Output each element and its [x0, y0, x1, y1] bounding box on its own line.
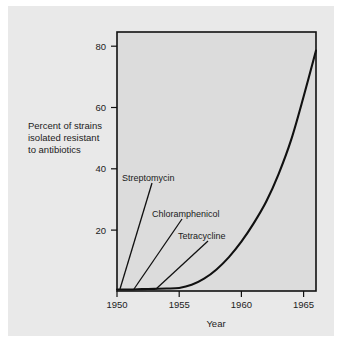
y-tick-label-20: 20	[95, 225, 106, 236]
x-axis-title: Year	[206, 318, 225, 329]
y-tick-label-80: 80	[95, 41, 106, 52]
x-tick-label-1950: 1950	[106, 299, 127, 310]
x-tick-label-1960: 1960	[231, 299, 252, 310]
y-axis-title-line-1: Percent of strains	[28, 120, 102, 131]
y-axis-ticks	[111, 46, 117, 230]
y-axis-title-line-2: isolated resistant	[28, 132, 100, 143]
x-tick-label-1955: 1955	[169, 299, 190, 310]
chart-figure: 80 60 40 20 1950 1955 1960 1965 Year Per…	[0, 0, 342, 348]
x-tick-label-1965: 1965	[293, 299, 314, 310]
antibiotic-resistance-line-chart: 80 60 40 20 1950 1955 1960 1965 Year Per…	[0, 0, 342, 348]
y-axis-title-line-3: to antibiotics	[28, 144, 81, 155]
x-axis-ticks	[117, 291, 304, 297]
annotation-label-tetracycline: Tetracycline	[178, 231, 226, 241]
y-tick-label-60: 60	[95, 102, 106, 113]
y-tick-label-40: 40	[95, 163, 106, 174]
plot-area-background	[117, 32, 316, 291]
annotation-label-streptomycin: Streptomycin	[122, 173, 175, 183]
annotation-label-chloramphenicol: Chloramphenicol	[152, 209, 220, 219]
